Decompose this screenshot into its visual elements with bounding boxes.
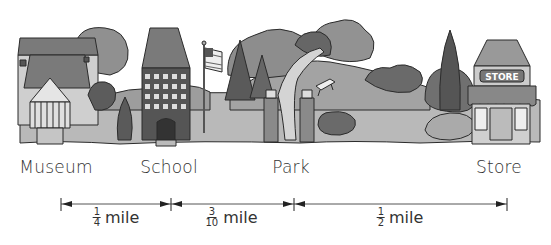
arrow-left-icon — [295, 201, 305, 207]
distance-ruler — [0, 190, 551, 220]
fraction: 1 2 — [377, 207, 385, 228]
gate-pillar-left — [264, 98, 278, 142]
arrow-right-icon — [496, 201, 506, 207]
distance-label-park-store: 1 2 mile — [377, 207, 424, 228]
unit: mile — [105, 208, 139, 227]
place-label-store: Store — [476, 157, 522, 177]
arrow-right-icon — [160, 201, 170, 207]
place-label-museum: Museum — [19, 157, 92, 177]
cypress-tall — [440, 30, 461, 110]
bush-park — [318, 112, 355, 135]
school-building — [142, 28, 190, 146]
fraction: 3 10 — [204, 207, 219, 228]
store-building: STORE — [468, 40, 536, 144]
store-sign: STORE — [485, 72, 518, 82]
gate-pillar-right — [300, 98, 314, 142]
town-illustration: STORE — [0, 0, 551, 150]
unit: mile — [223, 208, 257, 227]
distance-label-museum-school: 1 4 mile — [93, 207, 140, 228]
place-label-park: Park — [272, 157, 310, 177]
arrow-left-icon — [62, 201, 72, 207]
fraction: 1 4 — [93, 207, 101, 228]
unit: mile — [389, 208, 423, 227]
place-label-school: School — [140, 157, 198, 177]
distance-label-school-park: 3 10 mile — [204, 207, 257, 228]
arrow-left-icon — [172, 201, 182, 207]
arrow-right-icon — [283, 201, 293, 207]
